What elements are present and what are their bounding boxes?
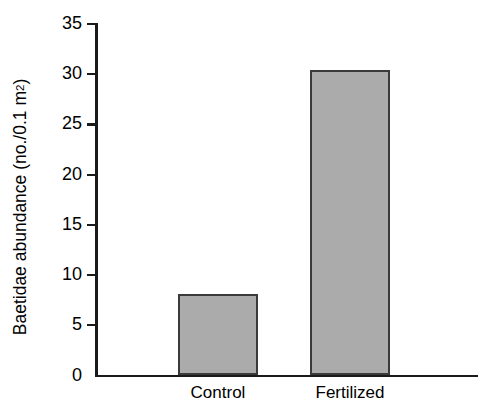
y-axis-tick-label: 30 [0, 64, 82, 84]
y-axis-tick-label: 10 [0, 265, 82, 285]
y-axis-tick [87, 123, 96, 125]
y-axis-tick [87, 224, 96, 226]
y-axis-tick [87, 324, 96, 326]
y-axis-tick [87, 174, 96, 176]
y-axis-tick [87, 73, 96, 75]
y-axis-tick-label: 5 [0, 315, 82, 335]
y-axis-tick-label-text: 30 [0, 64, 82, 82]
y-axis-tick-label: 20 [0, 165, 82, 185]
y-axis-tick-label-text: 20 [0, 165, 82, 183]
y-axis-tick-label: 35 [0, 14, 82, 34]
y-axis-tick-label-text: 5 [0, 315, 82, 333]
bar-chart-figure: Baetidae abundance (no./0.1 m2) 05101520… [0, 0, 488, 414]
y-axis-tick-label: 15 [0, 215, 82, 235]
x-axis-category-label: Fertilized [270, 384, 430, 401]
bar [310, 70, 390, 375]
y-axis-tick-label-text: 35 [0, 14, 82, 32]
y-axis-tick-label-text: 25 [0, 114, 82, 132]
x-axis-line [95, 375, 478, 378]
y-axis-tick-label-text: 10 [0, 265, 82, 283]
y-axis-tick [87, 23, 96, 25]
y-axis-tick-label-text: 0 [0, 366, 82, 384]
y-axis-tick [87, 274, 96, 276]
y-axis-tick-label: 25 [0, 114, 82, 134]
y-axis-title: Baetidae abundance (no./0.1 m2) [0, 0, 40, 414]
y-axis-tick-label: 0 [0, 366, 82, 386]
bar [178, 294, 258, 375]
y-axis-tick-label-text: 15 [0, 215, 82, 233]
